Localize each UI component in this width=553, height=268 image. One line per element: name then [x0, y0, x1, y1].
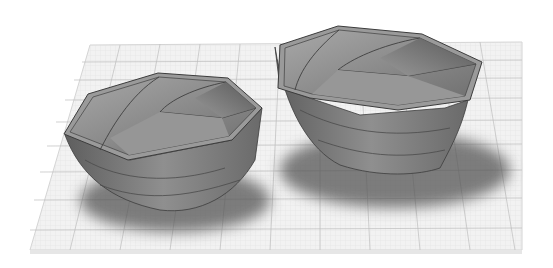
render-scene [0, 0, 553, 268]
scene-canvas [0, 0, 553, 268]
